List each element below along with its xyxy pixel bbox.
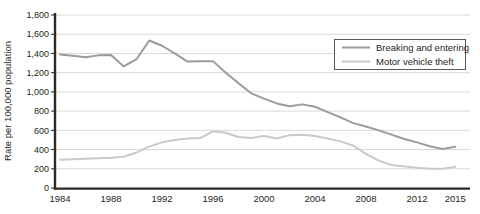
legend-label-breaking-and-entering: Breaking and entering (376, 42, 469, 53)
y-tick-label: 1,200 (26, 68, 49, 78)
y-tick-label: 1,400 (26, 49, 49, 59)
y-tick-label: 1,600 (26, 29, 49, 39)
y-tick-label: 600 (34, 126, 49, 136)
x-tick-label: 2015 (445, 193, 466, 204)
legend: Breaking and entering Motor vehicle thef… (335, 40, 469, 70)
y-tick-label: 0 (44, 183, 49, 193)
x-tick-label: 1992 (151, 193, 172, 204)
crime-rate-line-chart: 02004006008001,0001,2001,4001,6001,800 1… (0, 0, 480, 214)
y-tick-label: 800 (34, 106, 49, 116)
y-tick-label: 1,000 (26, 87, 49, 97)
y-tick-label: 200 (34, 164, 49, 174)
x-tick-label: 1996 (202, 193, 223, 204)
x-tick-label: 2012 (406, 193, 427, 204)
y-axis-tick-labels: 02004006008001,0001,2001,4001,6001,800 (26, 10, 49, 193)
x-tick-label: 1984 (49, 193, 70, 204)
gridlines (55, 15, 470, 169)
y-tick-label: 1,800 (26, 10, 49, 20)
x-tick-label: 2008 (355, 193, 376, 204)
x-axis-tick-labels: 198419881992199620002004200820122015 (49, 193, 465, 204)
y-tick-label: 400 (34, 145, 49, 155)
x-tick-label: 2004 (304, 193, 325, 204)
x-tick-label: 1988 (100, 193, 121, 204)
x-tick-label: 2000 (253, 193, 274, 204)
plot-area: 02004006008001,0001,2001,4001,6001,800 1… (0, 0, 480, 214)
y-axis-title: Rate per 100,000 population (2, 41, 13, 161)
legend-label-motor-vehicle-theft: Motor vehicle theft (376, 56, 454, 67)
